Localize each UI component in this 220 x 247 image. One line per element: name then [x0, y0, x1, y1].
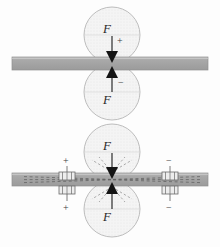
top-upper-roller-polarity-sign: + [117, 36, 123, 46]
top-lower-roller-force-label: F [103, 93, 111, 106]
right-electrode-top-sign: − [166, 156, 172, 166]
bottom-upper-roller-force-label: F [103, 139, 111, 152]
physics-diagram: F + − F F F + + − − [0, 0, 220, 247]
top-lower-roller-polarity-sign: − [118, 78, 124, 88]
top-upper-roller-force-label: F [103, 22, 111, 35]
bottom-lower-roller-force-label: F [103, 210, 111, 223]
right-electrode-bottom-sign: − [166, 203, 172, 213]
left-electrode-bottom-sign: + [63, 203, 69, 213]
left-electrode-top-sign: + [63, 156, 69, 166]
